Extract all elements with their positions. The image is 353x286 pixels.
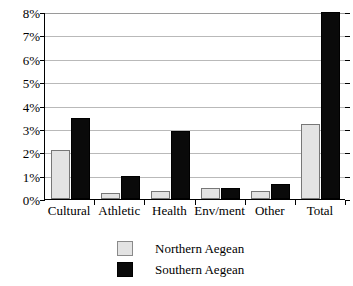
y-axis-tick — [40, 13, 45, 14]
y-axis-tick-label: 7% — [6, 30, 40, 43]
y-axis-tick — [40, 130, 45, 131]
chart-figure: 0%1%2%3%4%5%6%7%8% CulturalAthleticHealt… — [0, 0, 353, 286]
legend-swatch-southern-aegean — [117, 262, 133, 277]
x-axis-label-health: Health — [152, 203, 187, 219]
y-axis-tick-label: 3% — [6, 123, 40, 136]
gridline — [45, 107, 345, 108]
y-axis-tick-label: 6% — [6, 53, 40, 66]
y-axis-tick — [40, 36, 45, 37]
bar-total-northern — [301, 124, 320, 199]
y-axis-tick-label: 1% — [6, 170, 40, 183]
legend-item-southern-aegean: Southern Aegean — [117, 259, 307, 280]
y-axis-tick-right — [345, 36, 350, 37]
x-axis-label-athletic: Athletic — [98, 203, 140, 219]
y-axis-tick — [40, 153, 45, 154]
legend-label-southern-aegean: Southern Aegean — [155, 263, 244, 276]
legend-swatch-northern-aegean — [117, 241, 133, 256]
bar-other-southern — [271, 184, 290, 199]
y-axis-tick — [40, 60, 45, 61]
gridline — [45, 130, 345, 131]
y-axis-tick — [40, 107, 45, 108]
bar-health-southern — [171, 131, 190, 199]
plot-area — [44, 13, 345, 200]
bar-athletic-southern — [121, 176, 140, 199]
x-axis-tick — [295, 200, 296, 205]
y-axis-tick-right — [345, 130, 350, 131]
bar-cultural-southern — [71, 118, 90, 199]
y-axis-tick — [40, 200, 45, 201]
x-axis-label-env-ment: Env/ment — [194, 203, 245, 219]
y-axis-tick-right — [345, 177, 350, 178]
bar-health-northern — [151, 191, 170, 199]
bar-other-northern — [251, 191, 270, 199]
y-axis-tick-label: 8% — [6, 7, 40, 20]
gridline — [45, 60, 345, 61]
y-axis-tick-right — [345, 83, 350, 84]
x-axis-tick-end — [345, 200, 346, 205]
x-axis-label-other: Other — [255, 203, 285, 219]
y-axis-tick-label: 0% — [6, 194, 40, 207]
legend-label-northern-aegean: Northern Aegean — [155, 242, 244, 255]
bar-cultural-northern — [51, 150, 70, 199]
y-axis-tick — [40, 83, 45, 84]
gridline — [45, 177, 345, 178]
x-axis-tick — [94, 200, 95, 205]
x-axis-label-cultural: Cultural — [48, 203, 91, 219]
gridline — [45, 153, 345, 154]
y-axis-tick-label: 5% — [6, 77, 40, 90]
chart-legend: Northern Aegean Southern Aegean — [117, 238, 307, 280]
y-axis-tick-right — [345, 60, 350, 61]
y-axis-tick-label: 4% — [6, 100, 40, 113]
y-axis-tick-right — [345, 13, 350, 14]
bar-total-southern — [321, 12, 340, 199]
bar-env-ment-southern — [221, 188, 240, 199]
x-axis-label-total: Total — [307, 203, 334, 219]
bar-env-ment-northern — [201, 188, 220, 199]
y-axis-tick-right — [345, 153, 350, 154]
gridline — [45, 83, 345, 84]
gridline — [45, 13, 345, 14]
legend-item-northern-aegean: Northern Aegean — [117, 238, 307, 259]
gridline — [45, 36, 345, 37]
x-axis-tick — [144, 200, 145, 205]
y-axis-tick — [40, 177, 45, 178]
bar-athletic-northern — [101, 193, 120, 199]
y-axis-tick-label: 2% — [6, 147, 40, 160]
y-axis-tick-right — [345, 107, 350, 108]
